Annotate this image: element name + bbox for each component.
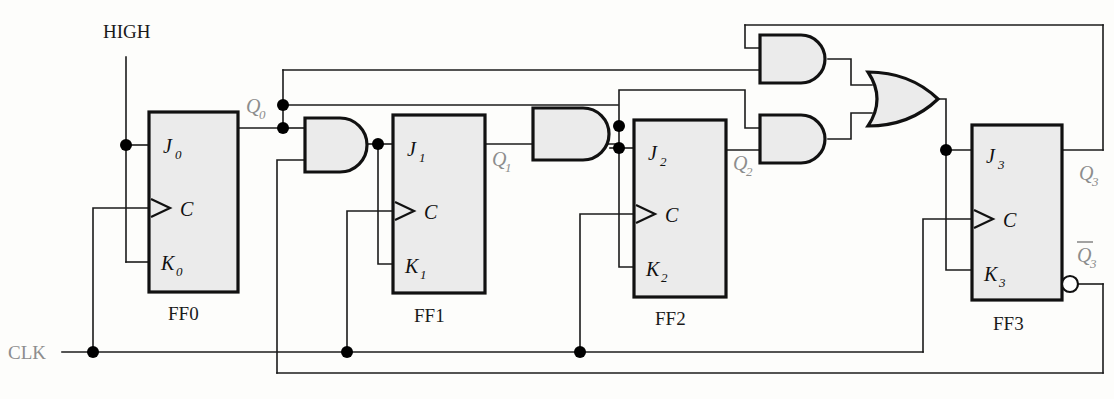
ff3-name: FF3 bbox=[993, 313, 1024, 334]
ff3-k-label: K bbox=[983, 263, 999, 285]
junction-clk-1 bbox=[341, 346, 353, 358]
signal-q2-sub: 2 bbox=[746, 164, 753, 179]
ff3-j-label: J bbox=[986, 145, 996, 167]
ff3-k-sub: 3 bbox=[998, 275, 1006, 290]
ff0-name: FF0 bbox=[168, 303, 199, 324]
circuit-diagram-canvas: HIGH CLK J 0 C K 0 FF0 J 1 C K 1 FF1 J 2… bbox=[0, 0, 1114, 399]
ff1-name: FF1 bbox=[414, 305, 445, 326]
ff0-k-sub: 0 bbox=[176, 264, 183, 279]
ff3-c-label: C bbox=[1003, 209, 1017, 231]
and-gate-2[interactable] bbox=[533, 108, 609, 160]
or-gate-1[interactable] bbox=[868, 72, 938, 126]
junction-and2-out-lower bbox=[613, 142, 625, 154]
ff2-c-label: C bbox=[665, 204, 679, 226]
and-gate-1[interactable] bbox=[305, 118, 367, 172]
ff1-k-sub: 1 bbox=[420, 267, 427, 282]
junction-q0-upper bbox=[277, 99, 289, 111]
ff0-k-label: K bbox=[160, 252, 176, 274]
wire-and3-to-or bbox=[828, 59, 872, 85]
wire-clk-to-ff3-c bbox=[923, 219, 972, 352]
junction-clk-2 bbox=[574, 346, 586, 358]
and-gate-3[interactable] bbox=[760, 35, 825, 83]
wire-qbar3fb-to-and1-bottom bbox=[277, 160, 305, 373]
ff1-j-sub: 1 bbox=[419, 150, 426, 165]
signal-q3-sub: 3 bbox=[1091, 174, 1099, 189]
label-clk: CLK bbox=[8, 342, 46, 363]
junction-clk-0 bbox=[87, 346, 99, 358]
wire-and1-to-k1 bbox=[378, 144, 393, 264]
ff0-j-sub: 0 bbox=[175, 147, 182, 162]
junction-or-out bbox=[940, 144, 952, 156]
ff2-name: FF2 bbox=[655, 308, 686, 329]
wire-or-to-k3 bbox=[946, 150, 972, 270]
junction-q0-lower bbox=[277, 122, 289, 134]
ff0-c-label: C bbox=[180, 198, 194, 220]
junction-and1-out bbox=[372, 138, 384, 150]
label-high: HIGH bbox=[103, 21, 151, 42]
ff1-k-label: K bbox=[404, 255, 420, 277]
ff2-k-label: K bbox=[645, 258, 661, 280]
wire-or-to-j3 bbox=[938, 99, 972, 150]
signal-qbar3-sub: 3 bbox=[1089, 256, 1097, 271]
ff2-j-sub: 2 bbox=[660, 154, 667, 169]
junction-high bbox=[120, 139, 132, 151]
junction-and2-out-upper bbox=[613, 120, 625, 132]
signal-q0-sub: 0 bbox=[259, 107, 266, 122]
wire-clk-to-ff1-c bbox=[347, 211, 393, 352]
ff1-j-label: J bbox=[407, 138, 417, 160]
circuit-svg: HIGH CLK J 0 C K 0 FF0 J 1 C K 1 FF1 J 2… bbox=[0, 0, 1114, 399]
wire-and2-to-k2 bbox=[619, 148, 634, 267]
qbar3-inversion-bubble-icon bbox=[1062, 276, 1078, 292]
ff2-k-sub: 2 bbox=[661, 270, 668, 285]
ff2-j-label: J bbox=[648, 142, 658, 164]
and-gate-4[interactable] bbox=[760, 115, 825, 163]
ff3-j-sub: 3 bbox=[997, 157, 1005, 172]
ff1-c-label: C bbox=[424, 201, 438, 223]
ff0-j-label: J bbox=[163, 135, 173, 157]
wire-clk-to-ff2-c bbox=[580, 214, 634, 352]
wire-and4-to-or bbox=[828, 113, 872, 139]
wire-clk-to-ff0-c bbox=[93, 208, 149, 352]
signal-q1-sub: 1 bbox=[505, 160, 512, 175]
